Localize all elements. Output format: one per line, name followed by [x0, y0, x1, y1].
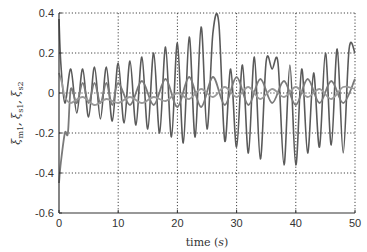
y-tick-label: -0.4	[35, 167, 54, 179]
y-tick-label: 0.4	[39, 7, 54, 19]
x-tick-label: 40	[290, 217, 302, 229]
x-tick-label: 20	[171, 217, 183, 229]
data-series	[59, 14, 355, 183]
y-tick-label: -0.6	[35, 207, 54, 219]
x-tick-label: 0	[56, 217, 62, 229]
y-axis-label: ξm1, ξs1, ξs2	[10, 81, 25, 144]
y-tick-label: 0.2	[39, 47, 54, 59]
x-tick-label: 30	[230, 217, 242, 229]
line-chart: -0.6-0.4-0.200.20.4 01020304050 time (s)…	[0, 0, 367, 252]
x-tick-label: 50	[349, 217, 361, 229]
x-axis-label: time (s)	[186, 236, 229, 249]
y-tick-label: -0.2	[35, 127, 54, 139]
y-tick-labels: -0.6-0.4-0.200.20.4	[35, 7, 54, 219]
y-tick-label: 0	[48, 87, 54, 99]
x-tick-labels: 01020304050	[56, 217, 361, 229]
x-tick-label: 10	[112, 217, 124, 229]
